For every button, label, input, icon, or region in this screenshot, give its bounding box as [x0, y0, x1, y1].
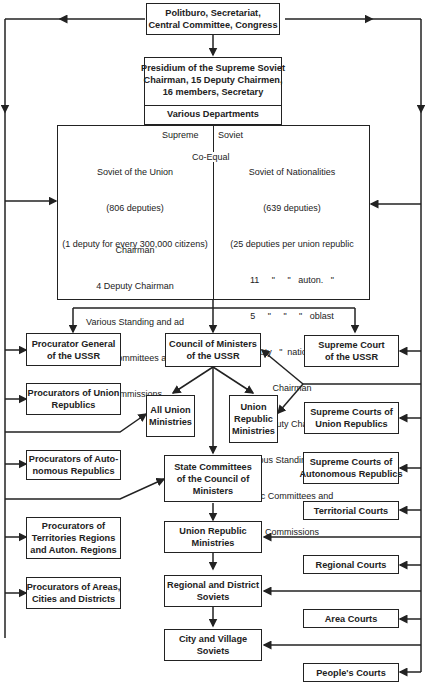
supreme-soviet-box: Supreme Soviet Co-Equal Soviet of the Un… — [57, 125, 370, 300]
box-label: All Union Ministries — [149, 404, 192, 428]
box-label: Territorial Courts — [314, 505, 388, 517]
box-label: People's Courts — [316, 667, 386, 679]
procurators-autonomous-republics: Procurators of Auto- nomous Republics — [26, 450, 121, 480]
procurators-territories: Procurators of Territories Regions and A… — [26, 517, 121, 559]
various-departments: Various Departments — [167, 108, 259, 120]
officer-line: Chairman — [215, 382, 369, 394]
union-title: Soviet of the Union — [58, 166, 212, 178]
supreme-courts-autonomous-republics: Supreme Courts of Autonomous Republics — [303, 452, 399, 484]
box-label: Procurators of Union Republics — [28, 387, 120, 411]
nat-line: Soviet of Nationalities — [215, 166, 369, 178]
presidium-line-1: Presidium of the Supreme Soviet — [141, 62, 285, 74]
council-of-ministers: Council of Ministers of the USSR — [165, 333, 261, 367]
box-label: Union Republic Ministries — [179, 525, 246, 549]
politburo-box: Politburo, Secretariat, Central Committe… — [146, 3, 280, 35]
box-label: Supreme Courts of Union Republics — [310, 406, 393, 430]
union-republic-ministries: Union Republic Ministries — [164, 521, 262, 553]
box-label: Union Republic Ministries — [232, 401, 275, 437]
procurators-areas: Procurators of Areas, Cities and Distric… — [26, 577, 121, 609]
officer-line: 4 Deputy Chairman — [58, 280, 212, 292]
supreme-court-ussr: Supreme Court of the USSR — [304, 335, 399, 367]
box-label: Procurators of Areas, Cities and Distric… — [27, 581, 121, 605]
politburo-line-2: Central Committee, Congress — [148, 19, 277, 31]
box-label: Procurator General of the USSR — [32, 338, 116, 362]
box-label: City and Village Soviets — [179, 633, 247, 657]
supreme-label: Supreme — [162, 130, 199, 140]
box-label: Supreme Court of the USSR — [318, 339, 384, 363]
presidium-line-2: Chairman, 15 Deputy Chairmen, — [144, 74, 283, 86]
box-label: Area Courts — [325, 613, 378, 625]
box-label: State Committees of the Council of Minis… — [174, 461, 252, 497]
union-republic-ministries-small: Union Republic Ministries — [229, 395, 278, 443]
box-label: Procurators of Territories Regions and A… — [30, 520, 116, 556]
officer-line: Various Standing and ad — [58, 316, 212, 328]
soviet-label: Soviet — [218, 130, 243, 140]
box-label: Procurators of Auto- nomous Republics — [29, 453, 119, 477]
officer-line: Chairman — [58, 244, 212, 256]
procurator-general: Procurator General of the USSR — [26, 333, 121, 366]
supreme-courts-union-republics: Supreme Courts of Union Republics — [304, 402, 399, 434]
regional-courts: Regional Courts — [303, 555, 399, 574]
peoples-courts: People's Courts — [303, 663, 399, 682]
nat-line: (25 deputies per union republic — [215, 238, 369, 250]
regional-district-soviets: Regional and District Soviets — [164, 575, 262, 607]
box-label: Supreme Courts of Autonomous Republics — [299, 456, 402, 480]
union-deputies: (806 deputies) — [58, 202, 212, 214]
all-union-ministries: All Union Ministries — [146, 395, 195, 437]
politburo-line-1: Politburo, Secretariat, — [165, 7, 260, 19]
procurators-union-republics: Procurators of Union Republics — [26, 383, 121, 415]
box-label: Regional and District Soviets — [167, 579, 259, 603]
nat-line: 11 " " auton. " — [215, 274, 369, 286]
nat-line: (639 deputies) — [215, 202, 369, 214]
state-committees: State Committees of the Council of Minis… — [164, 455, 262, 502]
box-label: Council of Ministers of the USSR — [169, 338, 257, 362]
city-village-soviets: City and Village Soviets — [164, 629, 262, 661]
territorial-courts: Territorial Courts — [303, 501, 399, 520]
presidium-line-3: 16 members, Secretary — [163, 86, 264, 98]
divider — [145, 105, 281, 106]
presidium-box: Presidium of the Supreme Soviet Chairman… — [144, 57, 282, 125]
box-label: Regional Courts — [316, 559, 387, 571]
nat-line: 5 " " " oblast — [215, 310, 369, 322]
area-courts: Area Courts — [303, 609, 399, 628]
